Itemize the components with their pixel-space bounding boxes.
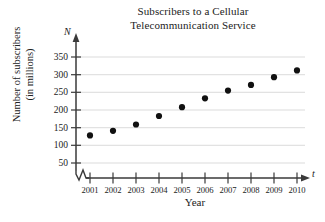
- data-point: [87, 132, 93, 138]
- data-point: [225, 87, 231, 93]
- data-point: [248, 82, 254, 88]
- y-tick-label-100: 100: [40, 140, 68, 150]
- data-point: [156, 113, 162, 119]
- x-tick-label-2010: 2010: [280, 185, 314, 195]
- x-axis-title: Year: [95, 196, 295, 208]
- y-tick-label-350: 350: [40, 52, 68, 62]
- y-tick-label-200: 200: [40, 105, 68, 115]
- y-tick-label-150: 150: [40, 123, 68, 133]
- x-axis: [86, 175, 310, 182]
- data-point: [110, 128, 116, 134]
- chart-figure: Subscribers to a Cellular Telecommunicat…: [0, 0, 325, 222]
- data-point: [294, 67, 300, 73]
- y-axis: [73, 33, 80, 171]
- x-axis-variable-label: t: [312, 168, 315, 179]
- data-point: [179, 104, 185, 110]
- y-axis-title: Number of subscribers (in millions): [11, 5, 36, 145]
- data-point: [271, 74, 277, 80]
- gridlines: [76, 57, 305, 163]
- data-point: [133, 121, 139, 127]
- y-tick-label-250: 250: [40, 87, 68, 97]
- y-axis-title-line-1: Number of subscribers: [11, 5, 24, 145]
- data-point: [202, 95, 208, 101]
- y-tick-label-300: 300: [40, 70, 68, 80]
- y-axis-title-line-2: (in millions): [23, 5, 36, 145]
- y-tick-label-50: 50: [40, 158, 68, 168]
- y-axis-variable-label: N: [64, 26, 71, 37]
